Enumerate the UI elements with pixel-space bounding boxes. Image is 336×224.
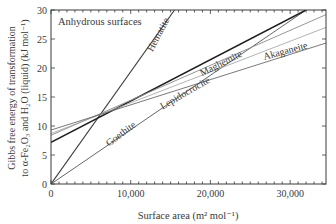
x-axis-label: Surface area (m² mol⁻¹) xyxy=(138,210,239,222)
y-tick-label: 20 xyxy=(37,63,47,74)
y-axis-label-line2: to α-Fe₂O₃ and H₂O (liquid) (kJ mol⁻¹) xyxy=(19,19,31,176)
hematite-label: Hematite xyxy=(144,15,171,53)
plot-border xyxy=(51,10,326,184)
annotation-text: Anhydrous surfaces xyxy=(58,16,142,27)
unlabeled-line xyxy=(51,27,326,133)
y-tick-label: 30 xyxy=(37,5,47,16)
chart: HematiteGoethiteMaghemiteLepidocrociteAk… xyxy=(0,0,336,224)
series-lines xyxy=(51,10,326,184)
y-tick-label: 0 xyxy=(42,179,47,190)
y-tick-label: 5 xyxy=(42,150,47,161)
x-tick-label: 30,000 xyxy=(276,188,304,199)
y-tick-label: 15 xyxy=(37,92,47,103)
lepidocrocite-label: Lepidocrocite xyxy=(158,74,212,112)
goethite-label: Goethite xyxy=(104,119,139,149)
y-tick-label: 25 xyxy=(37,34,47,45)
x-tick-label: 20,000 xyxy=(197,188,225,199)
maghemite-line xyxy=(51,10,306,142)
y-axis-label-line1: Gibbs free energy of transformation xyxy=(6,26,17,170)
y-tick-label: 10 xyxy=(37,121,47,132)
x-tick-label: 10,000 xyxy=(117,188,145,199)
x-tick-label: 0 xyxy=(49,188,54,199)
